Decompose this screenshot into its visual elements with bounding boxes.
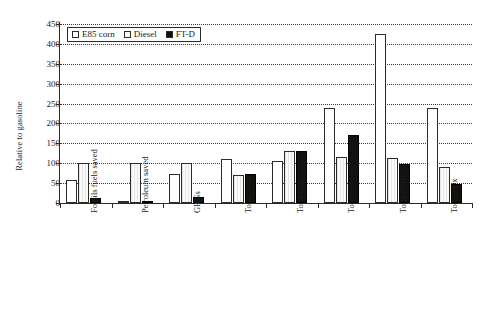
- bar-group: [369, 24, 421, 203]
- bar-e85: [375, 34, 386, 203]
- light-square-icon: [124, 31, 131, 38]
- y-axis-tick-label: 350: [26, 59, 60, 68]
- x-axis-tick: [112, 203, 113, 208]
- y-axis-tick-label: 450: [26, 20, 60, 29]
- bar-diesel: [181, 163, 192, 203]
- legend-item-e85-corn: E85 corn: [72, 30, 115, 39]
- legend-label: FT-D: [176, 30, 195, 39]
- legend-item-diesel: Diesel: [124, 30, 157, 39]
- bar-e85: [118, 201, 129, 203]
- bar-group: [215, 24, 267, 203]
- x-axis-tick: [318, 203, 319, 208]
- y-axis-tick-label: 250: [26, 99, 60, 108]
- x-axis-category-label: GHGs: [193, 191, 202, 213]
- y-axis-tick-label: 300: [26, 79, 60, 88]
- bar-e85: [272, 161, 283, 203]
- bar-chart: Relative to gasoline 4504003503002502001…: [0, 0, 479, 309]
- bar-e85: [66, 180, 77, 203]
- x-axis-category-label: Total CO: [296, 182, 305, 213]
- bar-group: [266, 24, 318, 203]
- x-axis-category-label: Total PM10: [399, 173, 408, 213]
- bar-group: [421, 24, 473, 203]
- bar-e85: [427, 108, 438, 203]
- bar-e85: [324, 108, 335, 203]
- bar-group: [163, 24, 215, 203]
- y-axis-tick-label: 100: [26, 159, 60, 168]
- bar-group: [60, 24, 112, 203]
- plot-area: 450400350300250200150100500: [60, 24, 472, 203]
- bar-diesel: [284, 151, 295, 203]
- x-axis-tick: [163, 203, 164, 208]
- bar-e85: [169, 174, 180, 203]
- x-axis-tick: [421, 203, 422, 208]
- y-axis-ticks: 450400350300250200150100500: [20, 24, 60, 203]
- x-axis-category-label: Petroleum saved: [141, 157, 150, 213]
- bar-diesel: [387, 158, 398, 203]
- legend-label: E85 corn: [82, 30, 115, 39]
- bar-series-container: [60, 24, 472, 203]
- y-axis-tick-label: 50: [26, 179, 60, 188]
- bar-diesel: [78, 163, 89, 203]
- y-axis-tick-label: 200: [26, 119, 60, 128]
- bar-group: [112, 24, 164, 203]
- white-square-icon: [72, 31, 79, 38]
- x-axis-tick: [266, 203, 267, 208]
- chart-legend: E85 corn Diesel FT-D: [67, 27, 201, 42]
- x-axis-category-label: Fossils fuels saved: [90, 149, 99, 213]
- black-square-icon: [166, 31, 173, 38]
- y-axis-tick-label: 400: [26, 39, 60, 48]
- bar-e85: [221, 159, 232, 203]
- x-axis-category-label: Total NOx: [347, 177, 356, 213]
- x-axis-category-label: Total SOx: [450, 178, 459, 213]
- y-axis-tick-label: 150: [26, 139, 60, 148]
- x-axis-tick: [60, 203, 61, 208]
- x-axis-category-label: Total VOC: [244, 176, 253, 213]
- x-axis-tick: [472, 203, 473, 208]
- x-axis-tick: [215, 203, 216, 208]
- bar-group: [318, 24, 370, 203]
- legend-item-ft-d: FT-D: [166, 30, 195, 39]
- y-axis-tick-label: 0: [26, 199, 60, 208]
- x-axis-tick: [369, 203, 370, 208]
- legend-label: Diesel: [134, 30, 157, 39]
